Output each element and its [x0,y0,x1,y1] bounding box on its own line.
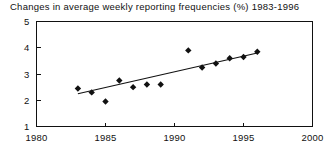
y-tick-label: 5 [24,16,29,27]
data-point-marker [158,81,164,87]
data-point-marker [102,98,108,104]
x-tick-label: 1995 [233,132,255,143]
plot-frame [37,22,313,127]
x-axis-ticks [37,123,313,127]
data-point-marker [227,55,233,61]
x-axis-tick-labels: 19801985199019952000 [26,132,324,143]
y-tick-label: 2 [24,95,29,106]
x-tick-label: 1990 [164,132,186,143]
y-tick-label: 1 [24,121,29,132]
x-tick-label: 2000 [302,132,324,143]
y-tick-label: 4 [24,42,29,53]
y-axis-ticks [37,22,41,127]
x-tick-label: 1980 [26,132,48,143]
x-tick-label: 1985 [95,132,117,143]
y-axis-tick-labels: 12345 [24,16,29,132]
data-point-marker [240,54,246,60]
plot-border [37,22,313,127]
data-point-marker [75,85,81,91]
data-point-marker [144,81,150,87]
data-points-series [75,47,261,105]
scatter-plot: 12345 19801985199019952000 [0,0,326,152]
data-point-marker [185,47,191,53]
data-point-marker [213,60,219,66]
data-point-marker [116,77,122,83]
chart-figure: Changes in average weekly reporting freq… [0,0,326,152]
y-tick-label: 3 [24,69,29,80]
data-point-marker [130,84,136,90]
